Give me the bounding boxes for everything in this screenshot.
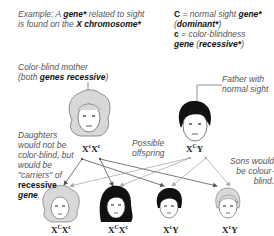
father-label: Father with normal sight: [222, 74, 274, 94]
son-1-face-icon: [157, 188, 182, 218]
mother-label: Color-blind mother (both genes recessive…: [18, 62, 128, 82]
offspring-4-genotype: XcY: [222, 224, 238, 235]
offspring-2-genotype: XCXc: [108, 224, 128, 235]
daughters-note: Daughters would not be color-blind, but …: [18, 130, 88, 200]
inheritance-diagram: Example: A gene* related to sight is fou…: [0, 0, 274, 236]
offspring-1-genotype: XCXc: [51, 224, 71, 235]
offspring-3-genotype: XcY: [163, 224, 179, 235]
daughter-2-face-icon: [100, 186, 133, 222]
example-text: Example: A gene* related to sight is fou…: [18, 9, 148, 29]
gene-legend: C = normal sight gene* (dominant*) c = c…: [174, 9, 274, 49]
son-2-face-icon: [216, 188, 240, 218]
sons-note: Sons would be colour- blind.: [226, 156, 274, 186]
father-face-icon: [179, 101, 211, 141]
possible-offspring-label: Possible offspring: [132, 138, 192, 158]
